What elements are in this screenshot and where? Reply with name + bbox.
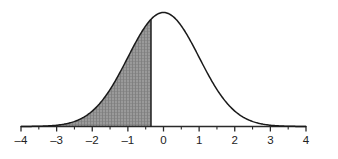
x-tick-label: 1 (196, 134, 202, 146)
x-tick-label: –3 (50, 134, 63, 146)
x-tick-label: –1 (121, 134, 134, 146)
x-tick-label: 3 (267, 134, 273, 146)
x-tick-label: 0 (160, 134, 166, 146)
x-tick-label: –4 (15, 134, 28, 146)
normal-curve-plot: –4–3–2–101234 (0, 0, 338, 159)
x-tick-label: 4 (303, 134, 310, 146)
x-tick-label: 2 (232, 134, 238, 146)
normal-distribution-figure: –4–3–2–101234 (0, 0, 338, 159)
x-tick-label: –2 (86, 134, 99, 146)
